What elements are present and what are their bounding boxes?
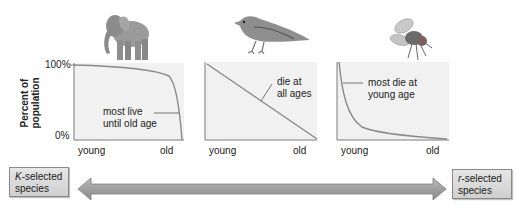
x-label-old: old: [160, 146, 173, 156]
x-label-young: young: [209, 146, 236, 156]
survivorship-curve-type-ii: [205, 62, 317, 140]
x-label-young: young: [341, 146, 368, 156]
x-label-old: old: [293, 146, 306, 156]
y-axis-label: Percent of population: [4, 77, 56, 129]
y-tick-0: 0%: [55, 131, 69, 141]
fly-icon: [388, 14, 438, 64]
bird-icon: [232, 13, 312, 58]
x-label-old: old: [426, 146, 439, 156]
x-label-young: young: [78, 146, 105, 156]
survivorship-curve-type-iii: [337, 62, 449, 140]
annotation-type-iii: most die at young age: [368, 77, 417, 101]
r-selected-species-box: r-selected species: [452, 169, 512, 199]
annotation-type-ii: die at all ages: [277, 76, 311, 100]
k-selected-species-box: K-selected species: [9, 167, 69, 197]
y-tick-100: 100%: [45, 60, 71, 70]
annotation-type-i: most live until old age: [103, 106, 157, 130]
double-arrow-icon: [77, 176, 447, 202]
elephant-icon: [95, 8, 155, 68]
